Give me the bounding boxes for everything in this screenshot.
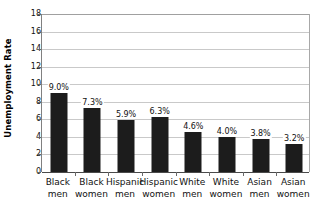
bar[interactable] (151, 117, 168, 172)
plot-area: 9.0%7.3%5.9%6.3%4.6%4.0%3.8%3.2% (41, 14, 310, 172)
bar[interactable] (185, 132, 202, 172)
bar-value-label: 7.3% (81, 98, 103, 107)
x-category-label-line1: Asian (272, 177, 314, 189)
x-tick-mark (176, 172, 177, 176)
bar-group: 5.9% (109, 14, 143, 172)
x-tick-mark (75, 172, 76, 176)
bar-value-label: 3.8% (249, 129, 271, 138)
x-axis-labels: BlackmenBlackwomenHispanicmenHispanicwom… (41, 177, 310, 210)
x-category-label-line2: women (272, 189, 314, 201)
x-tick-mark (108, 172, 109, 176)
x-tick-mark (142, 172, 143, 176)
y-axis-title-text: Unemployment Rate (3, 38, 13, 137)
bar[interactable] (218, 137, 235, 172)
bar-group: 3.8% (244, 14, 278, 172)
bar-value-label: 9.0% (48, 83, 70, 92)
bar-value-label: 6.3% (149, 107, 171, 116)
bar[interactable] (50, 93, 67, 172)
bar-group: 7.3% (76, 14, 110, 172)
bar[interactable] (286, 144, 303, 172)
bar-group: 4.6% (177, 14, 211, 172)
y-axis-title: Unemployment Rate (0, 0, 16, 175)
x-category-label: Asianwomen (272, 177, 314, 200)
bar-group: 6.3% (143, 14, 177, 172)
bar-chart: Unemployment Rate 024681012141618 9.0%7.… (0, 0, 318, 210)
x-tick-mark (243, 172, 244, 176)
bar-value-label: 4.0% (216, 127, 238, 136)
bar[interactable] (84, 108, 101, 172)
bar-group: 3.2% (277, 14, 311, 172)
x-tick-mark (276, 172, 277, 176)
bar[interactable] (252, 139, 269, 172)
x-tick-mark (209, 172, 210, 176)
bar-group: 9.0% (42, 14, 76, 172)
bar-group: 4.0% (210, 14, 244, 172)
bar-value-label: 5.9% (115, 110, 137, 119)
bar-value-label: 3.2% (283, 134, 305, 143)
bar[interactable] (118, 120, 135, 172)
bar-value-label: 4.6% (182, 122, 204, 131)
